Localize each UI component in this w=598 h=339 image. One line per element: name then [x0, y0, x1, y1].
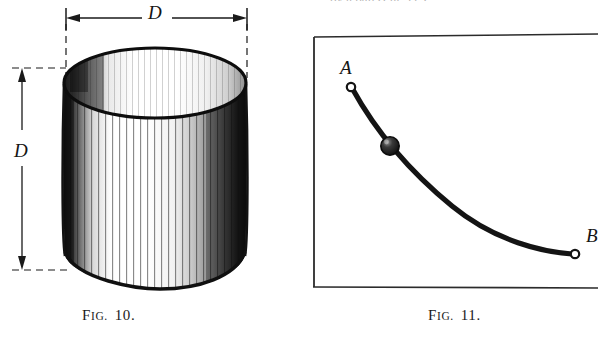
- caption-number: 11.: [461, 307, 481, 323]
- caption-number: 10.: [115, 307, 136, 323]
- dimension-label-width: D: [148, 2, 162, 24]
- figure-page: by a ball (Fig. 11.): [0, 0, 598, 339]
- frame-bottom-border: [313, 287, 598, 288]
- point-a-marker: [347, 83, 355, 91]
- arrowhead-left: [66, 14, 80, 22]
- arrowhead-down: [18, 256, 26, 270]
- arrowhead-right: [233, 14, 247, 22]
- figure-10-caption: FIG.10.: [82, 306, 135, 324]
- arrowhead-up: [18, 68, 26, 82]
- point-label-b: B: [586, 225, 598, 247]
- cylinder-diagram: [0, 0, 299, 300]
- point-label-a: A: [340, 57, 352, 79]
- dimension-height: [18, 68, 26, 270]
- caption-prefix: F: [428, 307, 437, 323]
- figure-11-caption: FIG.11.: [428, 306, 481, 324]
- caption-smallcaps: IG.: [91, 310, 108, 322]
- caption-prefix: F: [82, 307, 91, 323]
- rolling-ball: [381, 137, 399, 155]
- dimension-label-height: D: [14, 140, 28, 162]
- top-text-remnant: by a ball (Fig. 11.): [330, 0, 540, 1]
- curve-path: [352, 88, 572, 254]
- frame-top-border: [314, 34, 598, 37]
- caption-smallcaps: IG.: [437, 310, 454, 322]
- cylinder-top-face: [64, 48, 246, 118]
- point-b-marker: [571, 250, 579, 258]
- figure-10-group: D D: [0, 0, 299, 300]
